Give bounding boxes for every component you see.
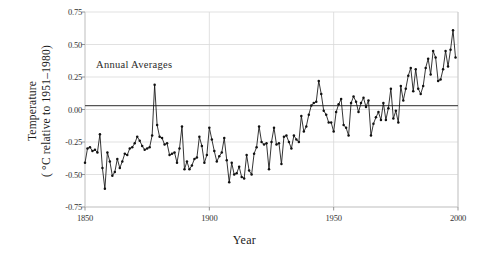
x-axis-tick-label: 1950 (326, 213, 342, 223)
chart-annotation: Annual Averages (96, 59, 172, 70)
x-axis-tick-label: 1900 (201, 213, 217, 223)
x-axis-tick-label: 2000 (450, 213, 466, 223)
x-axis-tick-labels: 1850190019502000 (0, 0, 489, 259)
x-axis-tick-label: 1850 (77, 213, 93, 223)
temperature-anomaly-chart: Temperature ( °C relative to 1951–1980) … (0, 0, 489, 259)
x-axis-label: Year (0, 233, 489, 248)
